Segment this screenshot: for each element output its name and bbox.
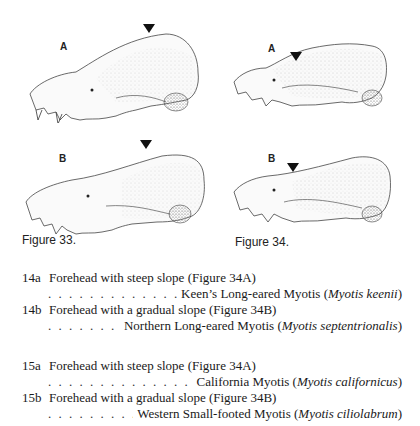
skull-illustration [26, 28, 206, 123]
lead-number: 14b [22, 302, 49, 318]
key-lead-15a: 15aForehead with steep slope (Figure 34A… [22, 358, 402, 374]
arrow-down-icon [290, 52, 302, 61]
arrow-down-icon [140, 140, 152, 149]
figure-34b-skull [232, 152, 394, 230]
scientific-name: Myotis californicus [297, 374, 398, 389]
panel-label: B [59, 153, 66, 164]
panel-label: A [268, 43, 275, 54]
lead-description: Forehead with a gradual slope (Figure 34… [49, 302, 276, 317]
lead-number: 14a [22, 270, 49, 286]
leader-dots [48, 374, 193, 390]
figure-33a-skull [26, 28, 206, 123]
lead-description: Forehead with a gradual slope (Figure 34… [49, 390, 276, 405]
figure-caption: Figure 33. [22, 233, 76, 247]
key-result-15a: California Myotis (Myotis californicus) [22, 374, 402, 390]
key-result-14a: Keen’s Long-eared Myotis (Myotis keenii) [22, 286, 402, 302]
figure-caption: Figure 34. [235, 235, 289, 249]
panel-label: A [60, 41, 67, 52]
skull-illustration [232, 152, 394, 230]
leader-dots [48, 406, 133, 422]
common-name: Western Small-footed Myotis [137, 406, 291, 421]
arrow-down-icon [143, 24, 155, 33]
scientific-name: Myotis septentrionalis [282, 318, 398, 333]
key-result-15b: Western Small-footed Myotis (Myotis cili… [22, 406, 402, 422]
arrow-down-icon [287, 163, 299, 172]
key-lead-14b: 14bForehead with a gradual slope (Figure… [22, 302, 402, 318]
skull-illustration [232, 40, 392, 115]
scientific-name: Myotis ciliolabrum [298, 406, 397, 421]
lead-number: 15b [22, 390, 49, 406]
figure-33b-skull [22, 150, 206, 240]
common-name: Northern Long-eared Myotis [124, 318, 274, 333]
key-result-14b: Northern Long-eared Myotis (Myotis septe… [22, 318, 402, 334]
key-lead-14a: 14aForehead with steep slope (Figure 34A… [22, 270, 402, 286]
key-couplet-14: 14aForehead with steep slope (Figure 34A… [22, 270, 402, 334]
leader-dots [48, 318, 120, 334]
lead-description: Forehead with steep slope (Figure 34A) [49, 270, 256, 285]
common-name: Keen’s Long-eared Myotis [181, 286, 320, 301]
leader-dots [48, 286, 177, 302]
figure-34a-skull [232, 40, 392, 115]
common-name: California Myotis [197, 374, 290, 389]
key-lead-15b: 15bForehead with a gradual slope (Figure… [22, 390, 402, 406]
panel-label: B [268, 153, 275, 164]
skull-illustration [22, 150, 206, 240]
lead-description: Forehead with steep slope (Figure 34A) [49, 358, 256, 373]
key-couplet-15: 15aForehead with steep slope (Figure 34A… [22, 358, 402, 422]
lead-number: 15a [22, 358, 49, 374]
scientific-name: Myotis keenii [328, 286, 398, 301]
